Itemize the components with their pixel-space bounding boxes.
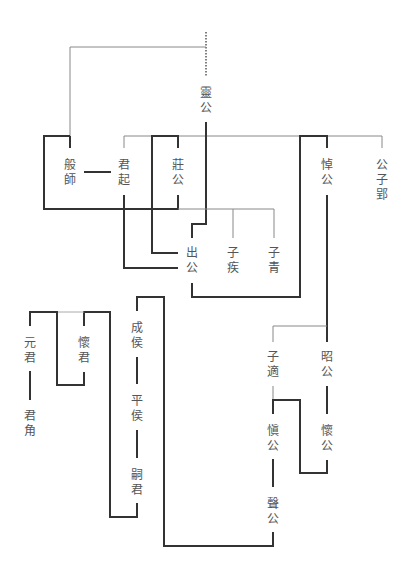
node-huaijun: 懷 君: [74, 336, 94, 366]
node-zishi: 子 適: [263, 350, 283, 380]
node-shengong: 愼 公: [263, 424, 283, 454]
node-ziqing: 子 青: [264, 246, 284, 276]
node-junqi: 君 起: [114, 158, 134, 188]
node-siju: 嗣 君: [127, 468, 147, 498]
node-huaigong: 懷 公: [317, 424, 337, 454]
node-daogong: 悼 公: [317, 158, 337, 188]
node-shenggong: 聲 公: [263, 497, 283, 527]
node-zhuanggong: 莊 公: [168, 158, 188, 188]
node-gongziying: 公 子 郢: [372, 158, 392, 203]
node-pinghou: 平 侯: [127, 394, 147, 424]
node-zhaogong: 昭 公: [317, 350, 337, 380]
node-chenghou: 成 侯: [127, 321, 147, 351]
node-junjiao: 君 角: [20, 409, 40, 439]
node-linggong: 靈 公: [196, 86, 216, 116]
node-banshi: 般 師: [60, 158, 80, 188]
node-ziji: 子 疾: [223, 246, 243, 276]
node-chugong: 出 公: [182, 246, 202, 276]
genealogy-diagram: 靈 公 般 師 君 起 莊 公 悼 公 公 子 郢 出 公 子 疾 子 青 元 …: [0, 0, 408, 580]
node-yuanjun: 元 君: [20, 336, 40, 366]
